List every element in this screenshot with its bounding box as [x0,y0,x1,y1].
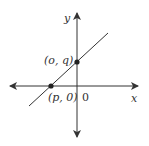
y-intercept-label: (o, q) [44,54,73,67]
point-x-intercept [48,83,53,88]
x-intercept-label: (p, 0) [48,91,78,104]
point-y-intercept [74,59,79,64]
y-axis-label: y [63,12,71,25]
origin-label: 0 [82,91,89,104]
x-axis-label: x [131,92,138,105]
coordinate-diagram: y x 0 (p, 0) (o, q) [0,0,149,146]
